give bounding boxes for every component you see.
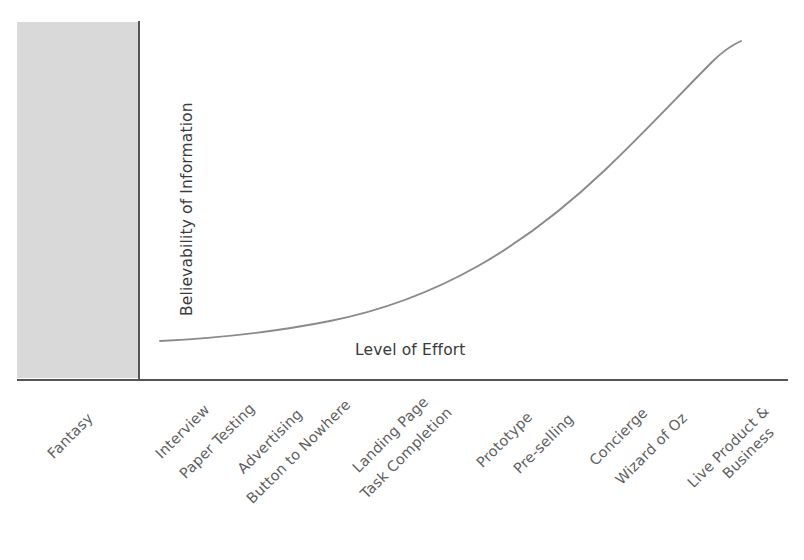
x-axis-tick-labels: Fantasy Interview Paper Testing Advertis… (0, 0, 804, 180)
x-axis-title: Level of Effort (355, 341, 466, 359)
chart-canvas: Believability of Information Level of Ef… (0, 0, 804, 560)
x-axis-line (17, 379, 788, 381)
tick-label-fantasy: Fantasy (44, 410, 96, 462)
